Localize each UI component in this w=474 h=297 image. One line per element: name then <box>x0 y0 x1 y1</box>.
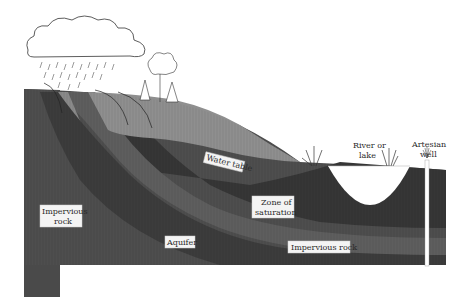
label-zone-of-saturation: Zone of saturation <box>252 196 297 218</box>
svg-text:River or: River or <box>353 141 386 150</box>
rain-cloud-icon <box>27 16 145 57</box>
label-aquifer: Aquifer <box>165 236 197 248</box>
label-river-or-lake: River or lake <box>353 141 386 160</box>
rain-icon <box>40 62 114 90</box>
label-impervious-rock-bottom: Impervious rock <box>288 241 357 253</box>
svg-text:well: well <box>420 150 437 159</box>
svg-text:Artesian: Artesian <box>411 140 446 149</box>
svg-text:rock: rock <box>54 217 72 226</box>
svg-text:Zone of: Zone of <box>261 198 293 207</box>
artesian-well-pipe <box>425 160 429 266</box>
groundwater-diagram: Water table River or lake Artesian well … <box>0 0 474 297</box>
svg-text:Impervious rock: Impervious rock <box>291 243 357 252</box>
svg-text:saturation: saturation <box>255 208 297 217</box>
tree-icon <box>140 53 178 102</box>
svg-text:Aquifer: Aquifer <box>166 238 197 247</box>
label-artesian-well: Artesian well <box>411 140 446 159</box>
label-impervious-rock-left: Impervious rock <box>40 205 88 227</box>
svg-text:lake: lake <box>359 151 376 160</box>
svg-text:Impervious: Impervious <box>42 207 88 216</box>
